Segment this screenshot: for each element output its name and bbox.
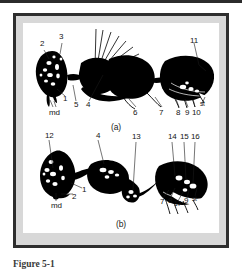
callout-b-md: md xyxy=(51,202,62,210)
callout-a-3: 3 xyxy=(59,33,63,41)
callout-b-9: 9 xyxy=(184,197,188,205)
figure-caption: Figure 5-1 xyxy=(13,259,213,269)
callout-b-13: 13 xyxy=(132,133,141,141)
callout-b-14: 14 xyxy=(168,133,177,141)
figure-panel-a: 2 3 1 5 4 md 6 7 8 9 10 st 11 (a) xyxy=(23,23,219,128)
callout-a-7: 7 xyxy=(159,109,163,117)
figure-frame-mat: 2 3 1 5 4 md 6 7 8 9 10 st 11 (a) xyxy=(16,16,226,245)
callout-a-11: 11 xyxy=(190,37,198,45)
callout-b-17: 17 xyxy=(174,201,181,208)
callout-a-6: 6 xyxy=(133,109,137,117)
callout-a-1: 1 xyxy=(63,95,67,103)
callout-b-15: 15 xyxy=(180,133,189,141)
callout-a-5: 5 xyxy=(74,101,78,109)
callout-b-16: 16 xyxy=(191,133,200,141)
callout-b-12: 12 xyxy=(45,132,54,140)
figure-panel-b: 12 4 13 14 15 16 1 2 md 7 8 17 9 st (b) xyxy=(23,128,219,233)
callout-b-st: st xyxy=(192,196,197,203)
callout-b-4: 4 xyxy=(96,132,100,140)
figure-frame-border: 2 3 1 5 4 md 6 7 8 9 10 st 11 (a) xyxy=(13,13,229,248)
callout-a-10: 10 xyxy=(192,109,201,117)
callout-b-1: 1 xyxy=(82,186,86,194)
callout-a-md: md xyxy=(49,109,60,117)
callout-b-2: 2 xyxy=(72,193,76,201)
panel-label-b: (b) xyxy=(116,220,126,228)
callout-a-st: st xyxy=(200,101,205,108)
figure-plate: 2 3 1 5 4 md 6 7 8 9 10 st 11 (a) xyxy=(23,23,219,233)
scan-edge-gap xyxy=(0,3,242,5)
insect-lateral-drawing-b xyxy=(23,128,219,233)
callout-b-8: 8 xyxy=(168,197,172,205)
callout-a-8: 8 xyxy=(176,109,180,117)
callout-a-4: 4 xyxy=(86,101,90,109)
callout-a-9: 9 xyxy=(185,109,189,117)
callout-a-2: 2 xyxy=(40,40,44,48)
callout-b-7: 7 xyxy=(160,198,164,206)
